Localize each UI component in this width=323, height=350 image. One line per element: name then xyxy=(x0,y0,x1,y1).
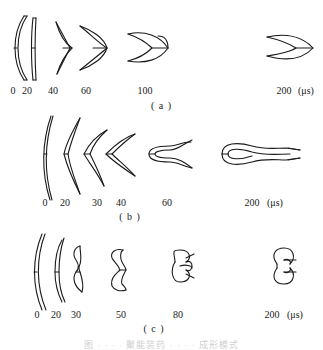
time-label: 200 xyxy=(277,86,292,96)
time-label: 50 xyxy=(116,310,126,320)
liner-shape-c-30 xyxy=(74,246,83,292)
time-label: 40 xyxy=(116,198,126,208)
liner-shape-b-40 xyxy=(106,134,135,176)
time-label: 0 xyxy=(35,310,40,320)
time-label: 40 xyxy=(48,86,58,96)
panel-label-c: ( c ) xyxy=(143,324,164,334)
liner-shape-a-100 xyxy=(128,33,168,62)
unit-label: (μs) xyxy=(267,198,283,208)
time-label: 20 xyxy=(60,198,70,208)
panel-label-a: ( a ) xyxy=(151,101,172,111)
liner-shape-b-60 xyxy=(149,140,192,168)
unit-label: (μs) xyxy=(298,86,314,96)
time-label: 100 xyxy=(138,86,153,96)
figure-caption: 图 · · · · 聚能装药 · · · · 成形模式 xyxy=(84,338,238,350)
liner-shape-a-40 xyxy=(56,22,72,74)
time-label: 80 xyxy=(173,310,183,320)
liner-shape-c-50 xyxy=(112,249,126,290)
time-label: 0 xyxy=(43,198,48,208)
panel-c: 0 20 30 50 80 200 (μs) ( c ) xyxy=(0,224,323,336)
time-label: 30 xyxy=(92,198,102,208)
liner-shape-b-30 xyxy=(84,130,107,186)
liner-shape-a-60 xyxy=(80,26,107,70)
liner-shape-b-20 xyxy=(64,118,80,194)
time-label: 30 xyxy=(71,310,81,320)
liner-shape-a-20 xyxy=(32,18,37,80)
time-label: 200 xyxy=(265,310,280,320)
panel-b: 0 20 30 40 60 200 (μs) ( b ) xyxy=(0,112,323,224)
liner-shape-b-200 xyxy=(222,144,300,165)
liner-shape-c-80 xyxy=(172,250,194,282)
liner-shape-c-200 xyxy=(274,248,296,284)
panel-a: 0 20 40 60 100 200 (μs) ( a ) xyxy=(0,0,323,112)
liner-shape-c-20 xyxy=(55,238,65,302)
unit-label: (μs) xyxy=(287,310,303,320)
time-label: 20 xyxy=(51,310,61,320)
time-label: 60 xyxy=(81,86,91,96)
time-label: 60 xyxy=(162,198,172,208)
liner-shape-a-200 xyxy=(267,35,313,59)
liner-shape-c-0 xyxy=(34,234,46,310)
liner-shape-a-0 xyxy=(14,16,27,80)
time-label: 20 xyxy=(22,86,32,96)
time-label: 200 xyxy=(245,198,260,208)
time-label: 0 xyxy=(11,86,16,96)
liner-shape-b-0 xyxy=(44,116,53,200)
panel-label-b: ( b ) xyxy=(119,212,141,222)
